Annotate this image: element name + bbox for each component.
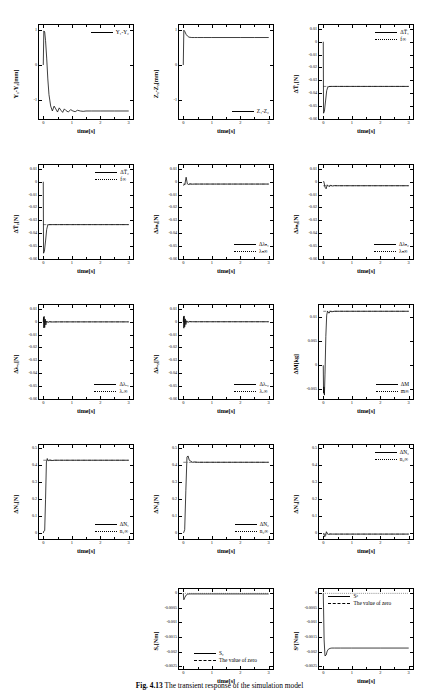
x-tick-label: 0: [322, 541, 324, 545]
x-minor-tick-top: [338, 165, 339, 167]
x-minor-tick-top: [58, 305, 59, 307]
y-tick-right: [270, 533, 273, 534]
legend-item: The value of zero: [328, 600, 391, 607]
y-tick-right: [270, 322, 273, 323]
y-tick-label: -0.04: [308, 231, 317, 235]
x-tick-top: [409, 25, 410, 28]
y-tick: [179, 169, 182, 170]
y-tick-label: 0.4: [312, 463, 317, 467]
x-tick-top: [240, 445, 241, 448]
y-tick-label: -0.05: [28, 384, 37, 388]
plot-inner: [39, 25, 133, 119]
y-tick-label: -1: [34, 98, 37, 102]
y-tick-label: -0.05: [168, 244, 177, 248]
x-tick: [240, 116, 241, 119]
legend-label: λₒ∞: [259, 388, 267, 395]
y-tick: [319, 622, 322, 623]
x-tick-top: [129, 305, 130, 308]
y-tick-label: -0.04: [28, 371, 37, 375]
x-tick-top: [183, 305, 184, 308]
subplot-dLO1: -0.06-0.05-0.04-0.03-0.02-0.0100.010123 …: [0, 294, 140, 434]
series-dT1: [323, 42, 408, 113]
x-minor-tick-top: [394, 25, 395, 27]
x-minor-tick: [226, 397, 227, 399]
x-tick: [323, 536, 324, 539]
y-tick-label: 0.01: [170, 167, 177, 171]
x-minor-tick: [198, 667, 199, 669]
subplot-dT1: -0.06-0.05-0.04-0.03-0.02-0.0100.010123 …: [280, 14, 420, 154]
y-tick-right: [130, 499, 133, 500]
y-axis-title: ΔN₁[N]: [12, 495, 19, 514]
x-tick-label: 3: [128, 541, 130, 545]
y-tick: [39, 169, 42, 170]
legend-line-icon: [234, 391, 256, 392]
y-tick-right: [270, 608, 273, 609]
y-tick-right: [130, 182, 133, 183]
x-minor-tick-top: [338, 305, 339, 307]
x-tick-label: 1: [351, 671, 353, 675]
x-tick: [212, 536, 213, 539]
y-tick-label: 0.3: [32, 480, 37, 484]
legend-label: λₙ∞: [259, 248, 267, 255]
y-tick-label: 0.2: [312, 497, 317, 501]
x-axis-title: time[s]: [39, 547, 133, 554]
plot-area-y1y2: -1010123 Y₁-Y₂ time[s]: [38, 24, 134, 120]
y-tick-right: [130, 246, 133, 247]
x-minor-tick: [338, 117, 339, 119]
x-tick-label: 3: [408, 541, 410, 545]
x-tick-label: 1: [351, 541, 353, 545]
y-tick: [319, 666, 322, 667]
x-minor-tick: [366, 667, 367, 669]
y-tick-label: -0.001: [166, 620, 177, 624]
y-tick: [179, 593, 182, 594]
y-tick-right: [410, 593, 413, 594]
legend-SZ: Sᶻ The value of zero: [328, 593, 391, 607]
series-dLO2: [183, 316, 268, 328]
y-tick-label: -0.01: [168, 193, 177, 197]
y-tick-right: [130, 448, 133, 449]
y-tick-label: -0.002: [166, 649, 177, 653]
plot-area-dN2: 00.10.20.30.40.50123 ΔN₂ n₂∞ time[s]: [178, 444, 274, 540]
plot-area-dN3: 00.10.20.30.40.50123 ΔN₃ n₃∞ time[s]: [318, 444, 414, 540]
y-tick-label: -0.02: [28, 205, 37, 209]
x-tick: [43, 396, 44, 399]
y-tick: [319, 317, 322, 318]
plot-area-dT2: -0.06-0.05-0.04-0.03-0.02-0.0100.010123 …: [38, 164, 134, 260]
legend-dM: ΔM m∞: [376, 381, 409, 395]
x-tick-label: 0: [42, 401, 44, 405]
y-tick-right: [270, 30, 273, 31]
x-minor-tick-top: [338, 25, 339, 27]
x-minor-tick: [86, 537, 87, 539]
y-tick-label: 0: [175, 180, 177, 184]
y-tick-right: [410, 608, 413, 609]
legend-dT1: ΔT̅₁ f∞: [375, 29, 409, 43]
x-tick-label: 2: [99, 121, 101, 125]
x-minor-tick-top: [198, 445, 199, 447]
y-tick: [319, 169, 322, 170]
x-minor-tick-top: [198, 305, 199, 307]
y-tick: [319, 55, 322, 56]
y-tick-right: [410, 207, 413, 208]
x-minor-tick: [226, 537, 227, 539]
y-tick-right: [410, 233, 413, 234]
y-tick-label: -0.04: [308, 91, 317, 95]
y-tick-label: -0.02: [308, 205, 317, 209]
legend-label: m∞: [401, 388, 409, 395]
y-tick-label: 0.005: [308, 339, 317, 343]
x-tick-label: 0: [182, 541, 184, 545]
legend-SY: Sᵧ The value of zero: [194, 650, 257, 664]
y-tick-right: [270, 499, 273, 500]
x-tick-top: [352, 25, 353, 28]
x-tick: [269, 396, 270, 399]
legend-dLN2: Δλₙ₂ λₙ∞: [374, 241, 409, 255]
y-tick: [179, 182, 182, 183]
y-tick: [319, 499, 322, 500]
x-tick-top: [129, 445, 130, 448]
legend-dN2: ΔN₂ n₂∞: [235, 521, 269, 535]
y-tick: [319, 341, 322, 342]
x-minor-tick-top: [394, 305, 395, 307]
x-minor-tick-top: [254, 25, 255, 27]
x-tick-label: 0: [42, 541, 44, 545]
legend-line-icon: [94, 391, 116, 392]
y-tick: [179, 347, 182, 348]
